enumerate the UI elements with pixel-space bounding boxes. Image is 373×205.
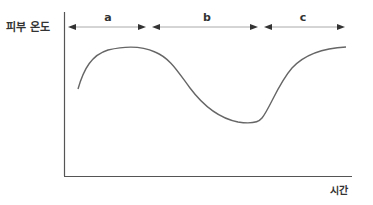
x-axis-label: 시간: [330, 184, 349, 196]
phase-label-b: b: [203, 11, 211, 24]
arrowhead-right-icon: [138, 24, 146, 30]
skin-temperature-curve: [78, 47, 346, 123]
arrowhead-right-icon: [337, 24, 345, 30]
arrowhead-left-icon: [264, 24, 272, 30]
arrowhead-left-icon: [152, 24, 160, 30]
arrowhead-right-icon: [250, 24, 258, 30]
phase-arrow-b: [152, 24, 258, 30]
skin-temperature-diagram: 피부 온도 시간 a b c: [0, 0, 373, 205]
arrowhead-left-icon: [68, 24, 76, 30]
phase-arrow-c: [264, 24, 345, 30]
y-axis-label: 피부 온도: [6, 20, 50, 34]
phase-label-c: c: [300, 11, 307, 24]
phase-arrow-a: [68, 24, 146, 30]
phase-label-a: a: [104, 11, 111, 24]
